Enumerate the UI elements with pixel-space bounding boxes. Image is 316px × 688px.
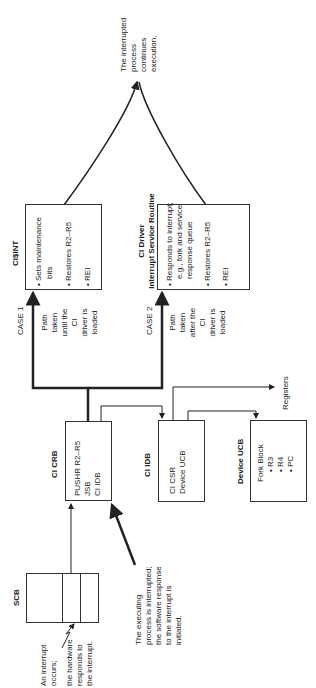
ci-driver-title: CI Driver Interrupt Service Routine xyxy=(137,186,157,296)
case2-label: CASE 2 xyxy=(145,307,155,335)
ci-int-items: • Sets maintenance bits • Restores R2–R5… xyxy=(33,217,93,286)
registers-label: Registers xyxy=(281,376,291,410)
ci-driver-items: • Responds to interrupt; e.g., fork and … xyxy=(165,202,231,286)
device-ucb-lines: Fork Block • R3 • R4 • PC xyxy=(256,444,296,482)
continues-note: The interrupted process continues execut… xyxy=(119,18,159,72)
interrupt-note: An interrupt occurs; the hardware respon… xyxy=(39,639,95,686)
device-ucb-title: Device UCB xyxy=(236,439,246,484)
ci-int-title: CI$INT xyxy=(11,241,21,266)
ci-idb-title: CI IDB xyxy=(143,453,153,477)
case1-label: CASE 1 xyxy=(16,307,26,335)
ci-crb-lines: PUSHR R2–R5 JSB CI IDB xyxy=(73,441,103,496)
ci-idb-lines: CI CSR Device UCB xyxy=(168,450,188,494)
case1-note: Path taken until the CI driver is loaded xyxy=(40,290,100,355)
executing-note: The executing process is interrupted; th… xyxy=(134,566,184,645)
ci-crb-title: CI CRB xyxy=(50,450,60,478)
case2-note: Path taken after the CI driver is loaded xyxy=(168,290,228,355)
scb-title: SCB xyxy=(12,589,22,606)
